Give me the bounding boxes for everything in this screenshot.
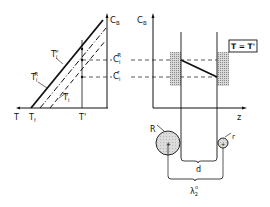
svg-text:+: + (221, 141, 225, 147)
interface-region-R (170, 52, 181, 86)
label-Tf: Tf (28, 113, 36, 123)
label-t-inf: Tl∞ (50, 48, 59, 60)
label-d: d (196, 165, 201, 174)
label-lambda: λ2o (190, 184, 198, 197)
label-t-R: TlR (30, 71, 38, 83)
diagram-figure: CB Tl∞ TlR Tlr T Tf T' ClR Clr CB z (0, 0, 270, 207)
concentration-gradient (181, 60, 217, 77)
cb-axis-arrow-right-icon (152, 13, 155, 18)
label-Tprime: T' (78, 113, 86, 122)
brace-lambda (168, 176, 223, 181)
brace-d (181, 158, 217, 163)
label-Cr: Clr (113, 69, 120, 82)
label-T: T (13, 113, 19, 122)
left-panel: CB Tl∞ TlR Tlr T Tf T' ClR Clr (13, 13, 121, 123)
label-z: z (237, 113, 241, 122)
label-r: r (232, 133, 235, 141)
curve-t-R (40, 28, 106, 108)
z-axis-arrow-icon (242, 107, 247, 110)
label-CR: ClR (113, 52, 121, 65)
cb-axis-arrow-icon (106, 13, 109, 18)
label-t-r: Tlr (62, 91, 69, 103)
interface-region-r (217, 52, 229, 86)
left-cb-label: CB (110, 15, 120, 26)
right-cb-label: CB (137, 15, 147, 26)
condition-text: T = T' (231, 42, 255, 51)
right-panel: CB z T = T' + R + r d λ2o (137, 13, 257, 197)
svg-text:+: + (166, 140, 171, 147)
diagram-canvas: CB Tl∞ TlR Tlr T Tf T' ClR Clr CB z (0, 0, 270, 207)
t-axis-arrow-icon (16, 107, 20, 110)
label-R: R (150, 125, 156, 134)
